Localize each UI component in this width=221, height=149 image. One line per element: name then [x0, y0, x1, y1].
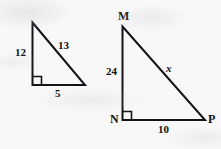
- large-triangle-vertex-m-label: M: [118, 10, 129, 22]
- large-triangle-horizontal-leg-label: 10: [158, 124, 169, 135]
- large-triangle-outline: [123, 27, 206, 121]
- small-triangle-horizontal-leg-label: 5: [55, 88, 61, 99]
- large-triangle-vertical-leg-label: 24: [106, 66, 117, 77]
- small-triangle-vertical-leg-label: 12: [15, 47, 26, 58]
- large-triangle-right-angle-marker: [123, 112, 132, 121]
- large-triangle-vertex-n-label: N: [110, 113, 119, 125]
- geometry-figure: 12 13 5 M N P 24 x 10: [0, 0, 221, 149]
- large-triangle-vertex-p-label: P: [208, 113, 215, 125]
- small-triangle-right-angle-marker: [33, 77, 42, 86]
- small-triangle-shape: [33, 23, 86, 86]
- small-triangle-outline: [33, 23, 86, 86]
- small-triangle-hypotenuse-label: 13: [58, 40, 69, 51]
- large-triangle-hypotenuse-label: x: [166, 63, 172, 74]
- large-triangle-shape: [123, 27, 206, 121]
